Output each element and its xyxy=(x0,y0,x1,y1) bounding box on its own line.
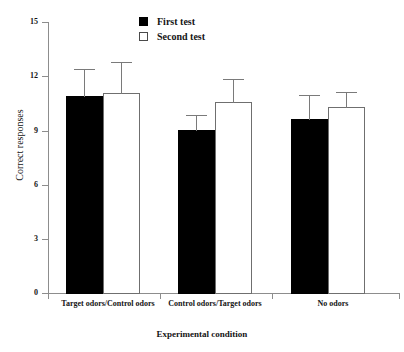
x-tick-mark-group-end xyxy=(399,294,400,299)
legend-item-first-test: First test xyxy=(139,14,205,29)
error-bar-stem-group2-second-test xyxy=(233,79,234,103)
bar-group1-second-test xyxy=(103,93,140,294)
y-tick-mark-15 xyxy=(42,22,48,23)
y-tick-mark-12 xyxy=(42,76,48,77)
bar-group3-second-test xyxy=(328,107,365,294)
legend: First test Second test xyxy=(139,14,205,44)
bar-group1-first-test xyxy=(66,96,103,294)
legend-label-first-test: First test xyxy=(157,17,195,27)
y-axis-title: Correct responses xyxy=(15,70,25,220)
error-bar-stem-group2-first-test xyxy=(196,115,197,131)
x-tick-mark-group-1 xyxy=(48,294,49,299)
y-tick-mark-9 xyxy=(42,131,48,132)
bar-group2-second-test xyxy=(215,102,252,294)
x-tick-label-group-2: Control odors/Target odors xyxy=(145,300,285,308)
error-bar-stem-group1-second-test xyxy=(121,62,122,94)
error-bar-cap-group2-first-test xyxy=(186,115,207,116)
error-bar-cap-group3-second-test xyxy=(336,92,357,93)
legend-swatch-second-test xyxy=(139,32,148,41)
y-axis-line xyxy=(48,22,49,294)
x-tick-label-group-3: No odors xyxy=(268,300,398,308)
bar-group2-first-test xyxy=(178,130,215,294)
legend-label-second-test: Second test xyxy=(157,32,205,42)
error-bar-cap-group2-second-test xyxy=(223,79,244,80)
y-tick-label-3: 3 xyxy=(8,235,38,243)
y-tick-label-0: 0 xyxy=(8,289,38,297)
error-bar-stem-group3-second-test xyxy=(346,92,347,108)
y-tick-mark-6 xyxy=(42,185,48,186)
legend-item-second-test: Second test xyxy=(139,29,205,44)
x-tick-mark-group-2 xyxy=(160,294,161,299)
x-tick-mark-group-3 xyxy=(272,294,273,299)
error-bar-cap-group1-second-test xyxy=(111,62,132,63)
y-tick-label-15: 15 xyxy=(8,18,38,26)
y-tick-mark-3 xyxy=(42,239,48,240)
error-bar-stem-group3-first-test xyxy=(309,95,310,120)
x-axis-title: Experimental condition xyxy=(0,329,404,339)
error-bar-stem-group1-first-test xyxy=(84,69,85,97)
legend-swatch-first-test xyxy=(139,17,148,26)
error-bar-cap-group1-first-test xyxy=(74,69,95,70)
bar-group3-first-test xyxy=(291,119,328,294)
bar-chart-figure: 15 12 9 6 3 0 First test Second test xyxy=(0,0,404,352)
error-bar-cap-group3-first-test xyxy=(299,95,320,96)
